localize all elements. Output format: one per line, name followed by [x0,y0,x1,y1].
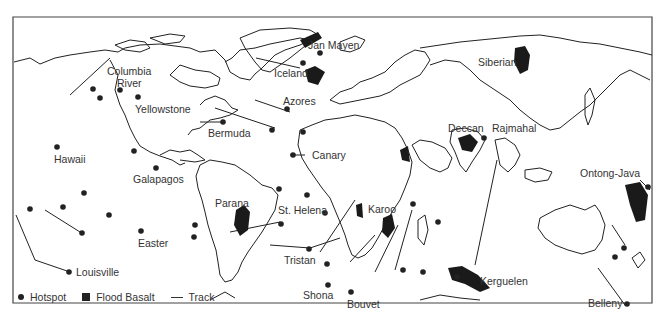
hotspot-reunion [435,219,441,225]
hotspot-p3 [60,204,66,210]
hotspot-sh2 [304,192,310,198]
basalt-deccan [458,134,478,152]
legend-hotspot-label: Hotspot [30,291,66,303]
hotspot-juan [192,222,198,228]
label-tristan: Tristan [284,255,316,266]
hotspot-ontong-java [645,184,651,190]
label-parana: Parana [215,198,249,209]
label-columbia-1: Columbia [107,66,151,77]
hotspot-lord-howe [612,254,618,260]
hotspot-mex [131,148,137,154]
label-yellowstone: Yellowstone [135,104,191,115]
map-legend: Hotspot Flood Basalt Track [18,291,214,303]
label-shona: Shona [303,290,333,301]
hotspot-belleny [624,301,630,307]
label-siberian: Siberian [478,57,517,68]
hotspot-shona [325,282,331,288]
label-belleny: Belleny [588,298,622,309]
hotspot-juan2 [191,234,197,240]
track-legend-icon [171,297,183,298]
hotspot-col2 [97,95,103,101]
label-galapagos: Galapagos [133,174,184,185]
hotspot-azores [284,106,290,112]
basalt-iceland [305,66,325,85]
hotspot-easter [138,228,144,234]
hotspot-marion [400,267,406,273]
legend-flood-basalt-label: Flood Basalt [96,291,154,303]
hotspot-p1 [81,190,87,196]
hotspot-rajmahal [481,135,487,141]
basalt-parana [234,205,250,236]
hotspot-canary1 [300,129,306,135]
label-st-helena: St. Helena [278,205,327,216]
hotspot-p2 [27,206,33,212]
label-karoo: Karoo [368,204,396,215]
label-ontong-java: Ontong-Java [580,168,640,179]
basalt-ontong-java [625,182,648,222]
hotspot-bouvet [348,289,354,295]
legend-track-label: Track [189,291,215,303]
label-jan-mayen: Jan Mayen [308,40,359,51]
hotspot-jan-mayen [317,50,323,56]
hotspot-sh1 [276,186,282,192]
label-deccan: Deccan [448,123,484,134]
label-columbia-2: River [117,78,142,89]
hotspot-tristan [306,246,312,252]
hotspot-bermuda [220,119,226,125]
hotspot-canary [290,152,296,158]
hotspot-yellowstone [135,94,141,100]
label-rajmahal: Rajmahal [492,123,536,134]
hotspot-kerguelen [454,274,460,280]
hotspot-bermuda2 [269,127,275,133]
hotspot-gough [324,261,330,267]
label-iceland: Iceland [274,68,308,79]
label-bouvet: Bouvet [347,299,380,310]
hotspot-legend-icon [18,294,24,300]
hotspot-louisville [66,269,72,275]
label-kerguelen: Kerguelen [480,276,528,287]
hotspot-p4 [106,212,112,218]
flood-basalt-legend-icon [82,293,90,301]
hotspot-trinidade [278,221,284,227]
basalt-ethiopia [400,146,410,162]
hotspot-tasman [621,245,627,251]
hotspot-comoros [410,201,416,207]
basalt-karoo-west [356,203,363,218]
label-canary: Canary [312,150,346,161]
label-bermuda: Bermuda [208,128,251,139]
hotspot-crozet [420,269,426,275]
hotspot-col1 [90,86,96,92]
hotspot-hawaii [54,144,60,150]
label-hawaii: Hawaii [54,154,86,165]
hotspot-p5 [79,230,85,236]
hotspot-iceland [300,60,306,66]
label-easter: Easter [138,238,168,249]
label-louisville: Louisville [76,267,119,278]
hotspot-galapagos [153,165,159,171]
label-azores: Azores [283,96,316,107]
